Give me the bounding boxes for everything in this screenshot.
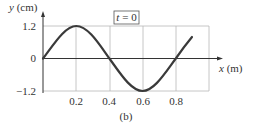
wave-chart: t = 0 y (cm) 1.2 0 −1.2 0.2 0.4 0.6 0.8 … — [0, 0, 258, 125]
time-box: t = 0 — [114, 11, 139, 24]
x-tick-0-4: 0.4 — [102, 95, 116, 107]
y-tick-0: 0 — [31, 52, 37, 64]
x-tick-0-8: 0.8 — [169, 95, 183, 107]
y-tick-1-2: 1.2 — [22, 20, 36, 32]
time-value: = 0 — [122, 11, 137, 23]
x-axis-arrow-icon — [217, 57, 223, 61]
y-tick-neg-1-2: −1.2 — [16, 85, 36, 97]
y-axis-label: y (cm) — [8, 1, 38, 14]
x-tick-0-6: 0.6 — [136, 95, 150, 107]
x-tick-0-2: 0.2 — [69, 95, 83, 107]
figure-caption: (b) — [120, 110, 133, 123]
svg-text:t = 0: t = 0 — [116, 11, 137, 23]
time-var: t — [116, 11, 120, 23]
y-axis-arrow-icon — [41, 11, 45, 17]
x-axis-label: x (m) — [218, 62, 243, 75]
